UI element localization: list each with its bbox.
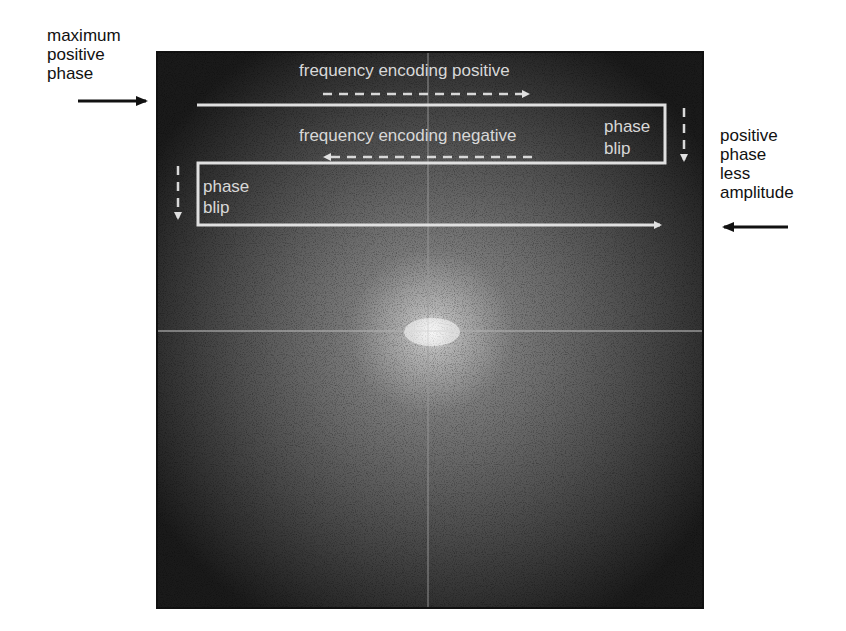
phase-blip-right-label-2: blip (604, 139, 630, 158)
phase-blip-right-label-1: phase (604, 117, 650, 136)
kspace-diagram: frequency encoding positive frequency en… (0, 0, 846, 631)
phase-blip-left-label-2: blip (203, 198, 229, 217)
freq-encoding-positive-label: frequency encoding positive (299, 61, 510, 80)
freq-encoding-negative-label: frequency encoding negative (299, 126, 516, 145)
phase-blip-left-label-1: phase (203, 177, 249, 196)
